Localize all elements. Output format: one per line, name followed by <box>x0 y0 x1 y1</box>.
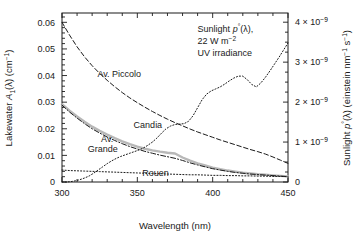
x-tick-label: 300 <box>54 188 69 198</box>
x-axis-title: Wavelength (nm) <box>139 220 211 231</box>
y-left-tick-label: 0.06 <box>37 18 55 28</box>
annotation-line-3: UV irradiance <box>198 48 253 58</box>
y-left-tick-label: 0.04 <box>37 71 55 81</box>
lakewater-sunlight-spectrum-chart: 300350400450 00.010.020.030.040.050.06 0… <box>0 0 359 235</box>
x-tick-label: 350 <box>130 188 145 198</box>
y-right-tick-label: 0 <box>295 177 300 187</box>
y-left-tick-label: 0.05 <box>37 44 55 54</box>
curve-label-av-piccolo: Av. Piccolo <box>97 69 141 79</box>
y-left-tick-label: 0.01 <box>37 151 55 161</box>
y-left-tick-label: 0 <box>50 177 55 187</box>
figure-container: 300350400450 00.010.020.030.040.050.06 0… <box>0 0 359 235</box>
y-left-tick-label: 0.03 <box>37 97 55 107</box>
curve-label-av-grande-line1: Av. <box>101 134 113 144</box>
figure-background <box>0 0 359 235</box>
annotation-line-1: Sunlight p°(λ), <box>198 23 254 34</box>
curve-label-candia: Candia <box>134 120 163 130</box>
x-tick-label: 450 <box>280 188 295 198</box>
x-tick-label: 400 <box>205 188 220 198</box>
curve-label-rouen: Rouen <box>142 168 169 178</box>
curve-label-av-grande-line2: Grande <box>88 144 118 154</box>
y-left-tick-label: 0.02 <box>37 124 55 134</box>
